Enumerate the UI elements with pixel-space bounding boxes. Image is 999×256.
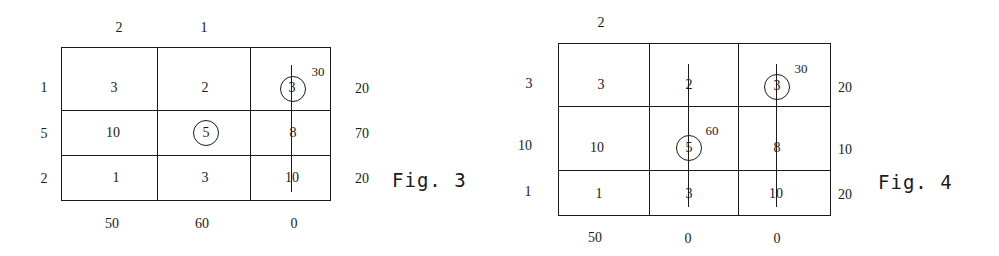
fig3-basic-cell-circle-icon bbox=[193, 120, 219, 146]
fig3-demand-label: 0 bbox=[291, 217, 298, 231]
fig3-demand-label: 50 bbox=[105, 217, 119, 231]
fig4-allocation-label: 60 bbox=[706, 124, 719, 137]
fig3-cell-cost: 2 bbox=[202, 81, 209, 95]
fig4-row-divider bbox=[558, 170, 831, 171]
fig3-row-potential-2: 5 bbox=[41, 127, 48, 141]
fig3-cell-cost: 10 bbox=[106, 126, 120, 140]
fig3-col-divider bbox=[157, 47, 158, 201]
fig4-row-potential-2: 10 bbox=[518, 139, 532, 153]
fig4-basic-cell-circle-icon bbox=[676, 135, 702, 161]
fig3-cell-cost: 3 bbox=[111, 81, 118, 95]
fig4-supply-label: 20 bbox=[838, 188, 852, 202]
fig3-col-potential-2: 1 bbox=[201, 21, 208, 35]
fig3-cell-cost: 3 bbox=[202, 171, 209, 185]
fig4-col-divider bbox=[738, 43, 739, 216]
fig4-basic-cell-circle-icon bbox=[764, 74, 790, 100]
fig3-caption: Fig. 3 bbox=[392, 169, 467, 191]
fig4-demand-label: 0 bbox=[685, 232, 692, 246]
fig4-col-divider bbox=[649, 43, 650, 216]
fig4-supply-label: 10 bbox=[838, 143, 852, 157]
fig3-allocation-label: 30 bbox=[312, 65, 325, 78]
fig4-cell-cost: 2 bbox=[686, 78, 693, 92]
fig3-cell-cost: 10 bbox=[285, 171, 299, 185]
fig4-cell-cost: 1 bbox=[596, 187, 603, 201]
fig3-supply-label: 20 bbox=[355, 172, 369, 186]
fig4-demand-label: 50 bbox=[588, 231, 602, 245]
fig4-row-potential-1: 3 bbox=[526, 77, 533, 91]
fig3-col-divider bbox=[250, 47, 251, 201]
fig3-col-potential-1: 2 bbox=[116, 21, 123, 35]
fig4-cycle-path-line bbox=[776, 64, 777, 207]
fig4-cell-cost: 3 bbox=[598, 78, 605, 92]
fig4-cycle-path-line bbox=[688, 64, 689, 207]
fig3-basic-cell-circle-icon bbox=[280, 76, 306, 102]
fig3-cycle-path-line bbox=[291, 65, 292, 192]
fig4-cell-cost: 3 bbox=[686, 187, 693, 201]
fig3-row-potential-1: 1 bbox=[41, 81, 48, 95]
fig3-supply-label: 70 bbox=[355, 127, 369, 141]
fig4-row-potential-3: 1 bbox=[525, 185, 532, 199]
fig4-cell-cost: 10 bbox=[590, 141, 604, 155]
fig4-demand-label: 0 bbox=[774, 232, 781, 246]
fig3-demand-label: 60 bbox=[195, 217, 209, 231]
fig3-row-potential-3: 2 bbox=[41, 172, 48, 186]
fig4-col-potential-1: 2 bbox=[598, 16, 605, 30]
fig3-cell-cost: 1 bbox=[113, 171, 120, 185]
fig4-caption: Fig. 4 bbox=[878, 171, 953, 193]
fig4-row-divider bbox=[558, 106, 831, 107]
fig4-supply-label: 20 bbox=[838, 81, 852, 95]
fig3-supply-label: 20 bbox=[355, 82, 369, 96]
fig4-allocation-label: 30 bbox=[795, 62, 808, 75]
fig4-cell-cost: 8 bbox=[774, 141, 781, 155]
